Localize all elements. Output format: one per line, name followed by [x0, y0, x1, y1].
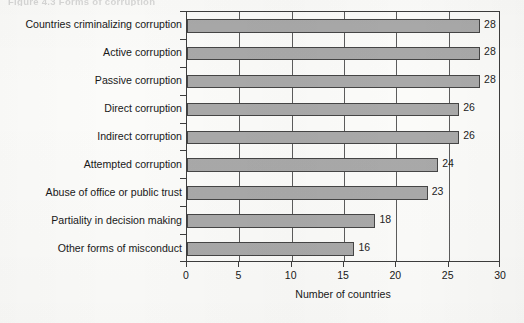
value-axis-tick-label: 30 — [494, 269, 506, 282]
bars-group: 282828262624231816 — [187, 12, 499, 261]
category-axis-tick — [180, 206, 186, 207]
value-axis-tick — [238, 262, 239, 267]
value-axis-tick — [395, 262, 396, 267]
category-axis-tick — [180, 150, 186, 151]
bar[interactable] — [187, 131, 459, 145]
bar[interactable] — [187, 47, 480, 61]
value-axis-tick — [499, 262, 500, 267]
value-axis-tick-label: 5 — [235, 269, 241, 282]
figure-container: Figure 4.3 Forms of corruption 282828262… — [0, 0, 524, 323]
bar-row: 16 — [187, 235, 499, 263]
category-label: Active corruption — [0, 46, 182, 59]
category-label: Indirect corruption — [0, 130, 182, 143]
category-label: Abuse of office or public trust — [0, 186, 182, 199]
bar[interactable] — [187, 103, 459, 117]
category-axis-tick — [180, 39, 186, 40]
bar-value-label: 28 — [484, 45, 496, 58]
category-axis-tick — [180, 234, 186, 235]
value-axis-tick-label: 0 — [183, 269, 189, 282]
category-axis-tick — [180, 67, 186, 68]
category-label: Partiality in decision making — [0, 214, 182, 227]
value-axis-tick-label: 15 — [337, 269, 349, 282]
bar[interactable] — [187, 242, 354, 256]
bar-value-label: 24 — [442, 157, 454, 170]
category-label: Countries criminalizing corruption — [0, 18, 182, 31]
value-axis-tick — [186, 262, 187, 267]
bar-row: 24 — [187, 151, 499, 179]
bar-row: 28 — [187, 40, 499, 68]
bar-value-label: 23 — [432, 185, 444, 198]
value-axis-tick-label: 25 — [442, 269, 454, 282]
category-label: Other forms of misconduct — [0, 242, 182, 255]
value-axis-tick-labels: 051015202530 — [186, 269, 500, 283]
bar[interactable] — [187, 158, 438, 172]
category-label: Passive corruption — [0, 74, 182, 87]
value-axis-tick — [448, 262, 449, 267]
bar-row: 28 — [187, 12, 499, 40]
bar-row: 26 — [187, 124, 499, 152]
value-axis-ticks — [186, 262, 500, 268]
bar-value-label: 28 — [484, 18, 496, 31]
category-axis-tick — [180, 123, 186, 124]
category-axis-tick — [180, 178, 186, 179]
category-axis-ticks — [180, 11, 186, 262]
bar[interactable] — [187, 75, 480, 89]
bar-value-label: 18 — [379, 213, 391, 226]
category-axis-tick — [180, 95, 186, 96]
category-axis-labels: Countries criminalizing corruptionActive… — [0, 11, 182, 262]
bar[interactable] — [187, 186, 428, 200]
bar-row: 18 — [187, 207, 499, 235]
bar-row: 23 — [187, 179, 499, 207]
value-axis-tick — [343, 262, 344, 267]
bar-row: 26 — [187, 96, 499, 124]
figure-caption-cropped: Figure 4.3 Forms of corruption — [8, 0, 155, 6]
bar-value-label: 26 — [463, 129, 475, 142]
value-axis-tick-label: 10 — [285, 269, 297, 282]
bar[interactable] — [187, 19, 480, 33]
value-axis-title: Number of countries — [186, 288, 500, 300]
bar-row: 28 — [187, 68, 499, 96]
category-label: Direct corruption — [0, 102, 182, 115]
bar[interactable] — [187, 214, 375, 228]
value-axis-tick — [291, 262, 292, 267]
category-axis-tick — [180, 11, 186, 12]
bar-value-label: 26 — [463, 101, 475, 114]
bar-value-label: 28 — [484, 73, 496, 86]
bar-value-label: 16 — [358, 241, 370, 254]
value-axis-tick-label: 20 — [389, 269, 401, 282]
plot-area: 282828262624231816 — [186, 11, 500, 262]
category-label: Attempted corruption — [0, 158, 182, 171]
